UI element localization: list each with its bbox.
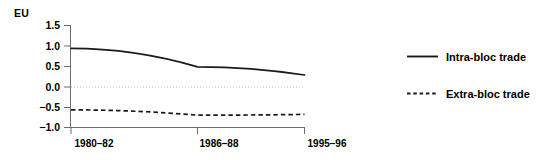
x-axis-tick-label: 1986–88 bbox=[200, 138, 239, 149]
legend: Intra-bloc trade Extra-bloc trade bbox=[407, 51, 530, 100]
y-axis-tick-label: 1.0 bbox=[45, 40, 60, 52]
x-axis-tick-label: 1980–82 bbox=[75, 138, 114, 149]
legend-item-extra-bloc-trade[interactable]: Extra-bloc trade bbox=[407, 88, 530, 100]
legend-item-intra-bloc-trade[interactable]: Intra-bloc trade bbox=[407, 51, 526, 63]
y-axis-tick-label: 0.5 bbox=[45, 60, 60, 72]
y-axis-tick-label: −0.5 bbox=[39, 101, 60, 113]
y-axis-tick-label: 1.5 bbox=[45, 19, 60, 31]
y-axis-tick-label: 0.0 bbox=[45, 81, 60, 93]
legend-label-intra-bloc-trade: Intra-bloc trade bbox=[446, 51, 526, 63]
x-axis-tick-label: 1995–96 bbox=[308, 138, 347, 149]
data-line-extra-bloc-trade bbox=[71, 110, 305, 115]
chart-figure: EU 1.5 1.0 0.5 0.0 −0.5 −1.0 1980–82 198… bbox=[0, 0, 542, 160]
data-line-intra-bloc-trade bbox=[71, 48, 305, 75]
legend-label-extra-bloc-trade: Extra-bloc trade bbox=[446, 88, 530, 100]
chart-plot: 1.5 1.0 0.5 0.0 −0.5 −1.0 1980–82 1986–8… bbox=[0, 0, 542, 160]
y-axis-tick-label: −1.0 bbox=[39, 121, 60, 133]
